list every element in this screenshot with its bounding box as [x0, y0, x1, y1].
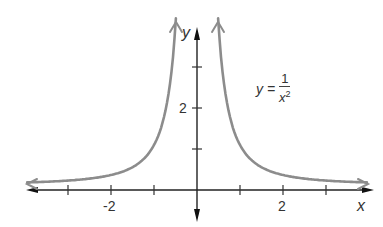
x-tick-label-neg2: -2 [103, 199, 115, 213]
reciprocal-square-graph [0, 0, 383, 227]
equation-denominator: x2 [279, 87, 291, 105]
x-tick-label-2: 2 [278, 199, 286, 213]
curve-arrow-left-end [27, 179, 37, 189]
y-axis [192, 27, 202, 222]
curve-arrow-right-end [358, 179, 368, 189]
curve-left-branch [27, 18, 176, 182]
equation-fraction: 1 x2 [279, 72, 291, 105]
y-tick-label-2: 2 [179, 101, 187, 115]
equation-lhs: y = [256, 81, 275, 97]
equation-numerator: 1 [279, 72, 290, 87]
x-axis [26, 185, 374, 195]
x-axis-label: x [357, 198, 365, 214]
curve-right-branch [218, 18, 367, 182]
equation-label: y = 1 x2 [256, 72, 291, 105]
y-axis-label: y [182, 25, 190, 41]
equation-exponent: 2 [286, 89, 291, 99]
